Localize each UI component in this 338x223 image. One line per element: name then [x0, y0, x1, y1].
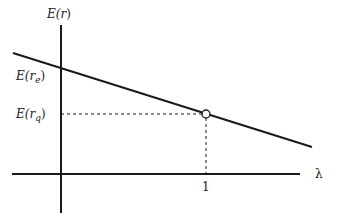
x-axis-label: λ — [315, 167, 323, 181]
point-label: E(rq) — [15, 107, 46, 123]
y-axis-label: E(r) — [46, 7, 71, 21]
diagram-canvas: E(r) E(re) E(rq) 1 λ — [0, 0, 338, 223]
sloped-line — [13, 53, 312, 147]
point-marker — [202, 110, 210, 118]
intercept-label: E(re) — [15, 69, 45, 85]
x-tick-label: 1 — [202, 180, 210, 194]
